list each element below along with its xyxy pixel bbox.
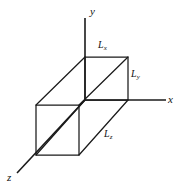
box-depth-edge-top-left <box>36 57 85 105</box>
length-x-subscript: x <box>104 44 107 52</box>
length-x-label: Lx <box>98 40 107 50</box>
length-y-label: Ly <box>131 69 140 79</box>
length-x-base: L <box>98 39 104 50</box>
length-z-label: Lz <box>104 129 112 139</box>
box-depth-edge-bottom-left <box>36 100 85 155</box>
length-z-subscript: z <box>110 133 113 141</box>
box-depth-edge-top-right <box>79 57 128 105</box>
figure-root: y x z Lx Ly Lz <box>0 0 181 188</box>
box-diagram-svg <box>0 0 181 188</box>
z-axis-label: z <box>7 172 11 183</box>
length-z-base: L <box>104 128 110 139</box>
y-axis-label: y <box>90 6 95 17</box>
x-axis-label: x <box>168 94 173 105</box>
length-y-subscript: y <box>137 73 140 81</box>
length-y-base: L <box>131 68 137 79</box>
